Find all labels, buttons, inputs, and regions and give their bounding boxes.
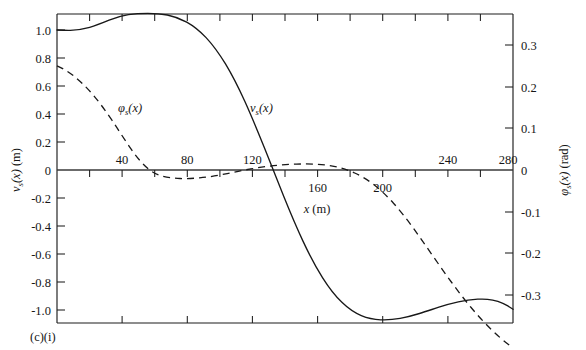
y-left-title-arg: (x) — [9, 169, 23, 183]
x-tick-label-120: 120 — [243, 153, 262, 167]
x-tick-labels-below: 160 200 — [308, 181, 392, 195]
figure-panel: 1.0 0.8 0.6 0.4 0.2 0 -0.2 -0.4 -0.6 -0.… — [0, 0, 586, 350]
y-left-tick-label: -0.6 — [31, 248, 51, 262]
plot-frame — [57, 14, 513, 323]
y-left-tick-label: 0.2 — [35, 136, 51, 150]
y-left-tick-label: -0.8 — [31, 276, 51, 290]
y-right-tick-labels: 0.3 0.2 0.1 0 -0.1 -0.2 -0.3 — [521, 39, 541, 303]
y-left-tick-label: -0.2 — [31, 192, 51, 206]
curve-label-v-s: vs(x) — [250, 101, 273, 117]
x-axis-title-unit: (m) — [312, 202, 330, 216]
x-ticks-top — [90, 14, 481, 21]
y-right-tick-label: 0.1 — [521, 122, 537, 136]
x-tick-label-240: 240 — [439, 153, 458, 167]
y-right-axis-title: φs(x) (rad) — [557, 144, 573, 196]
x-tick-label-40: 40 — [116, 153, 129, 167]
y-left-tick-label: 0.8 — [35, 52, 51, 66]
curve-label-v-arg: (x) — [259, 101, 273, 115]
y-left-tick-label: 0 — [45, 164, 51, 178]
x-ticks-bottom — [122, 316, 448, 323]
y-right-tick-label: -0.2 — [521, 247, 541, 261]
x-tick-labels-above: 40 80 120 240 280 — [116, 153, 518, 167]
y-right-title-unit: (rad) — [557, 144, 571, 168]
y-left-tick-label: -1.0 — [31, 304, 51, 318]
y-left-axis-title: vs(x) (m) — [9, 148, 25, 192]
y-right-tick-label: -0.3 — [521, 289, 541, 303]
y-left-tick-label: 0.6 — [35, 80, 51, 94]
y-right-tick-label: 0.2 — [521, 81, 537, 95]
y-left-tick-labels: 1.0 0.8 0.6 0.4 0.2 0 -0.2 -0.4 -0.6 -0.… — [31, 24, 52, 318]
svg-text:x (m): x (m) — [303, 202, 331, 216]
x-ticks-zero-axis — [90, 170, 481, 177]
y-right-title-arg: (x) — [557, 172, 571, 186]
svg-text:φs(x) (rad): φs(x) (rad) — [557, 144, 573, 196]
plot-svg: 1.0 0.8 0.6 0.4 0.2 0 -0.2 -0.4 -0.6 -0.… — [0, 0, 586, 350]
y-right-tick-label: 0.3 — [521, 39, 537, 53]
svg-text:φs(x): φs(x) — [118, 101, 142, 117]
svg-text:vs(x): vs(x) — [250, 101, 273, 117]
curve-label-phi-arg: (x) — [128, 101, 142, 115]
y-left-title-unit: (m) — [9, 148, 23, 166]
y-right-tick-label: -0.1 — [521, 206, 541, 220]
svg-text:vs(x) (m): vs(x) (m) — [9, 148, 25, 192]
x-axis-title: x (m) — [303, 202, 331, 216]
y-left-tick-label: 1.0 — [35, 24, 51, 38]
y-left-tick-label: -0.4 — [31, 220, 52, 234]
x-tick-label-280: 280 — [499, 153, 518, 167]
curve-label-phi-s: φs(x) — [118, 101, 142, 117]
panel-caption: (c)(i) — [30, 330, 56, 344]
y-right-tick-label: 0 — [521, 164, 527, 178]
y-left-tick-label: 0.4 — [35, 108, 51, 122]
x-tick-label-160: 160 — [308, 181, 327, 195]
x-tick-label-80: 80 — [181, 153, 194, 167]
